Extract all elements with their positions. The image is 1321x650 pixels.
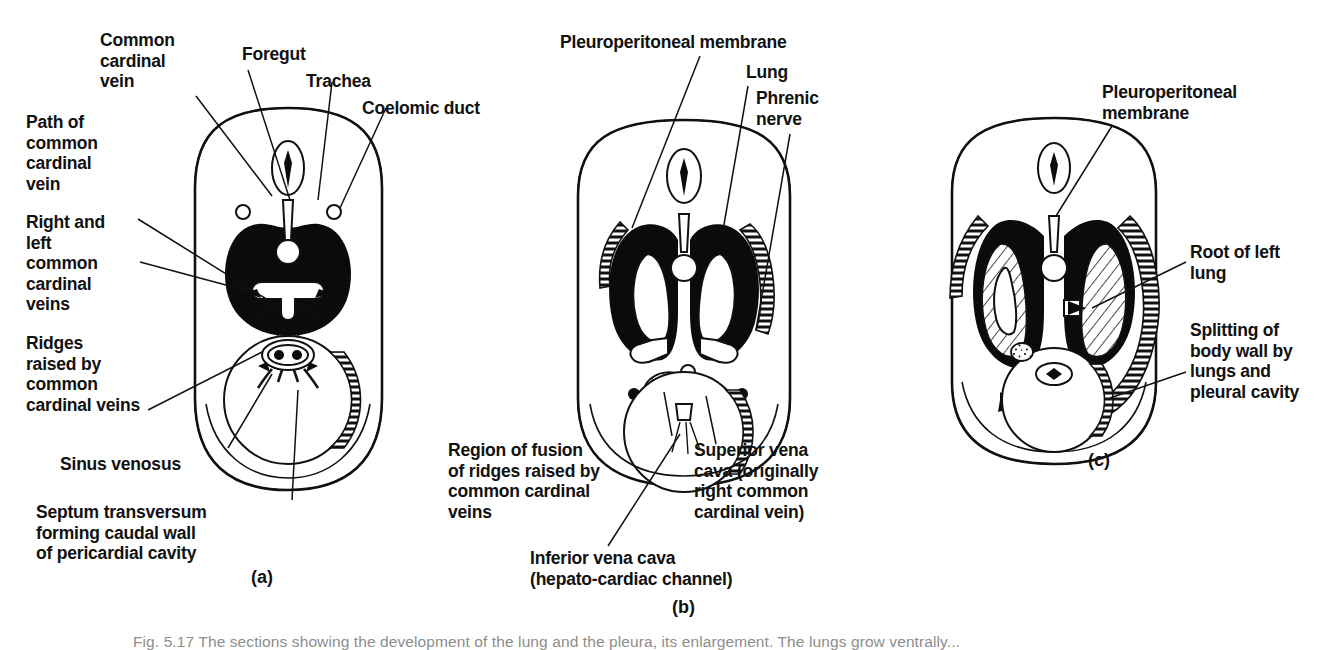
label-septum-transversum: Septum transversum forming caudal wall o… [36, 502, 207, 564]
label-phrenic-nerve: Phrenic nerve [756, 88, 819, 129]
panel-a-diagram [195, 108, 382, 490]
label-lung: Lung [746, 62, 788, 83]
label-sinus-venosus: Sinus venosus [60, 454, 181, 475]
label-common-cardinal-vein: Common cardinal vein [100, 30, 175, 92]
label-inferior-vena-cava: Inferior vena cava (hepato-cardiac chann… [530, 548, 732, 589]
label-foregut: Foregut [242, 44, 306, 65]
label-pleuroperitoneal-membrane-b: Pleuroperitoneal membrane [560, 32, 786, 53]
label-path-of-common-cardinal-vein: Path of common cardinal vein [26, 112, 98, 194]
label-right-and-left-common-cardinal-veins: Right and left common cardinal veins [26, 212, 105, 315]
panel-letter-c: (c) [1088, 450, 1110, 471]
label-root-of-left-lung: Root of left lung [1190, 242, 1280, 283]
panel-b-diagram [578, 120, 790, 492]
label-superior-vena-cava: Superior vena cava (originally right com… [694, 440, 818, 522]
panel-letter-a: (a) [251, 567, 273, 588]
figure-caption: Fig. 5.17 The sections showing the devel… [133, 631, 1313, 650]
label-splitting-of-body-wall: Splitting of body wall by lungs and pleu… [1190, 320, 1299, 402]
label-region-of-fusion-of-ridges: Region of fusion of ridges raised by com… [448, 440, 600, 522]
panel-letter-b: (b) [672, 597, 695, 618]
label-pleuroperitoneal-membrane-c: Pleuroperitoneal membrane [1102, 82, 1237, 123]
label-trachea: Trachea [306, 71, 371, 92]
label-coelomic-duct: Coelomic duct [362, 98, 480, 119]
label-ridges-raised-by-common-cardinal-veins: Ridges raised by common cardinal veins [26, 333, 140, 415]
